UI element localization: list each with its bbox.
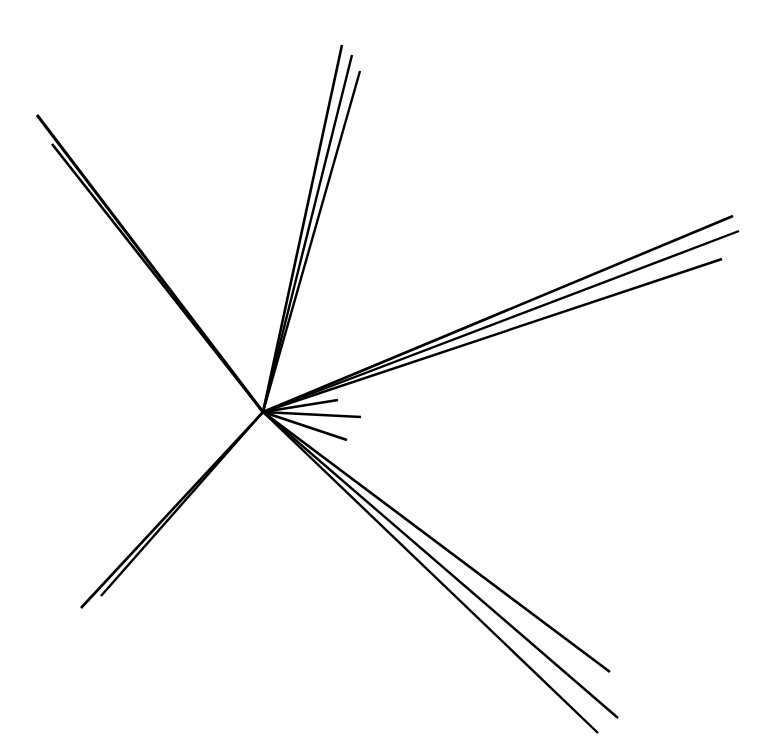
- figure-background: [0, 0, 767, 748]
- figure-canvas: [0, 0, 767, 748]
- vertex-line-diagram: [0, 0, 767, 748]
